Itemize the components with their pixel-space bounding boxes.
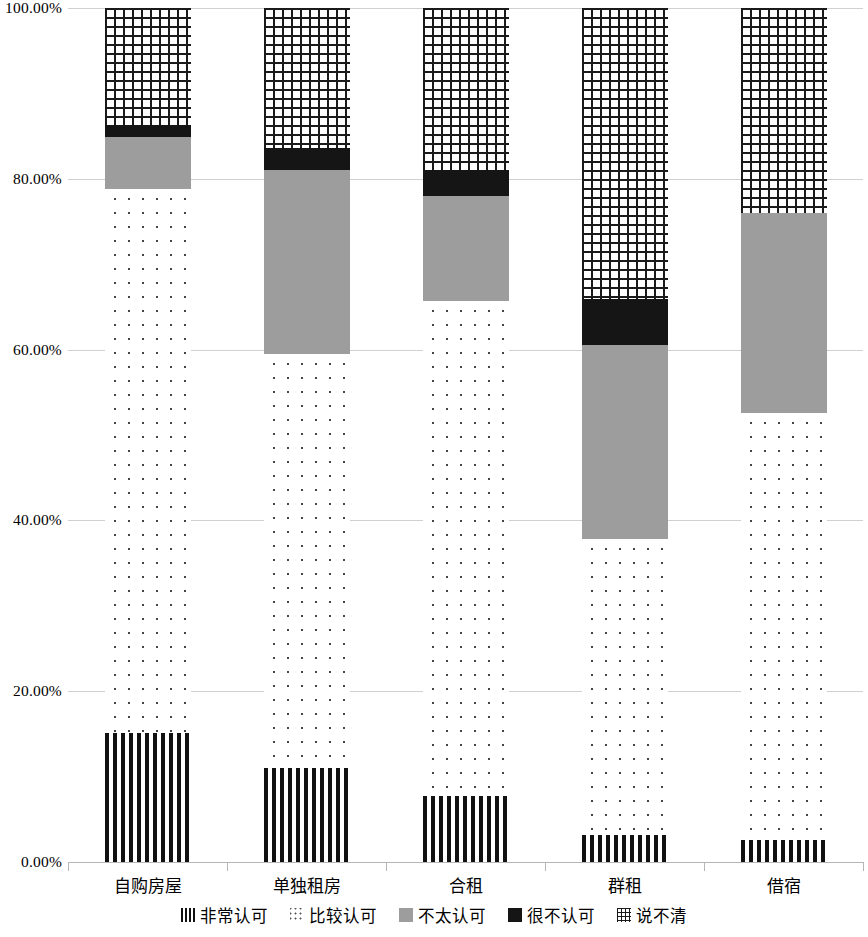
x-axis-label-单独租房: 单独租房 [273,872,341,897]
bar-segment-很不认可[interactable] [105,125,191,138]
legend-label: 很不认可 [527,903,595,927]
legend: 非常认可比较认可不太认可很不认可说不清 [0,903,868,927]
bar-segment-很不认可[interactable] [423,170,509,196]
bar-segment-非常认可[interactable] [423,796,509,862]
bar-segment-说不清[interactable] [741,8,827,213]
legend-label: 说不清 [636,903,687,927]
legend-swatch-icon [181,908,195,922]
bar-segment-非常认可[interactable] [105,733,191,862]
legend-item-不太认可[interactable]: 不太认可 [399,903,486,927]
x-axis-tick [386,862,387,871]
x-axis-label-群租: 群租 [608,872,642,897]
bar-segment-比较认可[interactable] [741,413,827,840]
bar-segment-非常认可[interactable] [741,840,827,862]
x-axis-label-合租: 合租 [449,872,483,897]
stacked-bar-chart: 0.00%20.00%40.00%60.00%80.00%100.00% 63.… [0,0,868,937]
bar-单独租房[interactable] [264,8,350,862]
bar-segment-不太认可[interactable] [582,345,668,539]
plot-area: 63.64%48.50%57.98%34.62%50.00% [68,8,863,862]
bar-segment-非常认可[interactable] [264,768,350,862]
bar-segment-不太认可[interactable] [741,213,827,413]
bar-segment-说不清[interactable] [423,8,509,170]
x-axis-tick [68,862,69,871]
x-axis-tick [704,862,705,871]
bar-合租[interactable] [423,8,509,862]
legend-swatch-icon [508,908,522,922]
legend-label: 非常认可 [200,903,268,927]
legend-label: 比较认可 [309,903,377,927]
bar-借宿[interactable] [741,8,827,862]
y-axis-tick-label: 80.00% [13,170,62,188]
bar-自购房屋[interactable] [105,8,191,862]
y-axis-tick-label: 0.00% [21,853,62,871]
x-axis-tick [227,862,228,871]
bar-segment-不太认可[interactable] [105,137,191,189]
bar-segment-说不清[interactable] [264,8,350,148]
bar-segment-很不认可[interactable] [582,299,668,345]
bar-segment-不太认可[interactable] [264,170,350,354]
legend-item-非常认可[interactable]: 非常认可 [181,903,268,927]
bar-segment-比较认可[interactable] [423,301,509,796]
y-axis-tick-label: 100.00% [5,0,62,17]
bar-segment-说不清[interactable] [582,8,668,299]
legend-label: 不太认可 [418,903,486,927]
bar-segment-很不认可[interactable] [264,148,350,170]
bar-segment-非常认可[interactable] [582,835,668,862]
bar-群租[interactable] [582,8,668,862]
y-axis: 0.00%20.00%40.00%60.00%80.00%100.00% [0,8,62,862]
legend-item-比较认可[interactable]: 比较认可 [290,903,377,927]
legend-swatch-icon [617,908,631,922]
legend-item-说不清[interactable]: 说不清 [617,903,687,927]
legend-swatch-icon [290,908,304,922]
bar-segment-比较认可[interactable] [105,189,191,732]
bar-segment-不太认可[interactable] [423,196,509,301]
x-axis-label-自购房屋: 自购房屋 [114,872,182,897]
y-axis-tick-label: 20.00% [13,682,62,700]
y-axis-tick-label: 40.00% [13,511,62,529]
x-axis-tick [863,862,864,871]
bar-segment-说不清[interactable] [105,8,191,125]
x-axis-label-借宿: 借宿 [767,872,801,897]
bar-segment-比较认可[interactable] [264,354,350,768]
x-axis-tick [545,862,546,871]
x-axis-line [68,862,863,863]
bar-segment-比较认可[interactable] [582,539,668,835]
legend-swatch-icon [399,908,413,922]
legend-item-很不认可[interactable]: 很不认可 [508,903,595,927]
y-axis-tick-label: 60.00% [13,341,62,359]
